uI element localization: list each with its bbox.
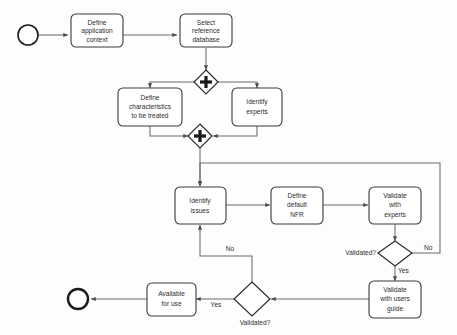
gateway-validated-users[interactable] bbox=[234, 282, 270, 316]
gateway-parallel-split[interactable] bbox=[194, 70, 218, 94]
task-label-line: reference bbox=[192, 27, 220, 34]
task-label-line: experts bbox=[246, 108, 268, 116]
edge-label-users-no: No bbox=[226, 245, 235, 252]
gateway-diamond[interactable] bbox=[234, 282, 270, 316]
task-label-line: Available bbox=[158, 290, 185, 297]
task-available-for-use[interactable]: Available for use bbox=[147, 283, 196, 316]
start-event[interactable] bbox=[18, 25, 38, 45]
task-label-line: characteristics bbox=[129, 103, 172, 110]
task-label-line: Define bbox=[140, 94, 159, 101]
bpmn-diagram-canvas: Define application context Select refere… bbox=[0, 0, 457, 335]
task-identify-experts[interactable]: Identify experts bbox=[232, 88, 282, 126]
flow-users-no-loopback-to-identify-issues bbox=[200, 225, 252, 282]
task-label-line: with bbox=[388, 201, 401, 208]
task-identify-issues[interactable]: Identify issues bbox=[175, 187, 226, 224]
task-define-application-context[interactable]: Define application context bbox=[71, 14, 123, 47]
gateway-diamond[interactable] bbox=[378, 241, 412, 266]
task-label-line: for use bbox=[161, 300, 181, 307]
connector-layer bbox=[38, 35, 440, 299]
edge-label-users-yes: Yes bbox=[211, 301, 222, 308]
task-label-line: guide bbox=[387, 305, 403, 313]
task-validate-with-users-guide[interactable]: Validate with users guide bbox=[369, 281, 421, 318]
gateway-parallel-join[interactable] bbox=[188, 124, 212, 148]
task-label-line: Define bbox=[287, 192, 306, 199]
task-label-line: issues bbox=[191, 207, 210, 214]
task-label-line: to be treated bbox=[131, 112, 168, 119]
task-label-line: database bbox=[192, 36, 219, 43]
process-flow-svg: Define application context Select refere… bbox=[0, 0, 457, 335]
flow-split-to-define-characteristics bbox=[150, 82, 194, 88]
task-label-line: experts bbox=[384, 211, 406, 219]
task-label-line: Identify bbox=[246, 98, 268, 106]
task-label-line: with users bbox=[379, 295, 410, 302]
task-label-line: Validate bbox=[383, 286, 407, 293]
task-define-characteristics[interactable]: Define characteristics to be treated bbox=[118, 88, 182, 126]
task-label-line: application bbox=[81, 27, 113, 35]
task-label-line: Validate bbox=[383, 192, 407, 199]
gateway-label-validated-experts: Validated? bbox=[345, 249, 376, 256]
task-validate-with-experts[interactable]: Validate with experts bbox=[369, 187, 421, 224]
task-label-line: default bbox=[287, 201, 307, 208]
task-box[interactable] bbox=[175, 187, 226, 224]
gateway-validated-experts[interactable] bbox=[378, 241, 412, 266]
task-label-line: Identify bbox=[189, 197, 211, 205]
task-select-reference-database[interactable]: Select reference database bbox=[180, 14, 232, 47]
edge-label-experts-no: No bbox=[424, 244, 433, 251]
flow-identify-experts-to-join bbox=[213, 126, 257, 136]
task-label-line: context bbox=[86, 36, 107, 43]
end-event[interactable] bbox=[68, 289, 88, 309]
task-label-line: Define bbox=[87, 19, 106, 26]
task-label-line: Select bbox=[197, 19, 215, 26]
edge-label-experts-yes: Yes bbox=[398, 267, 409, 274]
gateway-label-validated-users: Validated? bbox=[240, 319, 271, 326]
task-define-default-nfr[interactable]: Define default NFR bbox=[271, 187, 323, 224]
flow-define-characteristics-to-join bbox=[150, 126, 188, 136]
flow-split-to-identify-experts bbox=[218, 82, 257, 88]
task-label-line: NFR bbox=[290, 211, 304, 218]
